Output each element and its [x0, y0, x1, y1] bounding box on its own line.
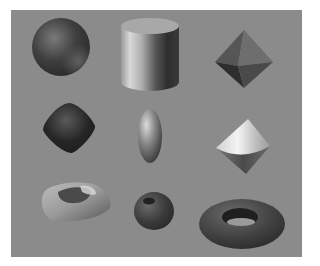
rounded-cube — [40, 100, 98, 156]
double-cone — [212, 116, 274, 176]
sphere — [30, 16, 92, 78]
ellipsoid — [136, 107, 166, 165]
octahedron — [212, 28, 276, 90]
rounded-square-torus — [36, 176, 114, 226]
cylinder — [118, 16, 182, 94]
apple-torus — [132, 190, 176, 232]
torus — [197, 196, 287, 252]
